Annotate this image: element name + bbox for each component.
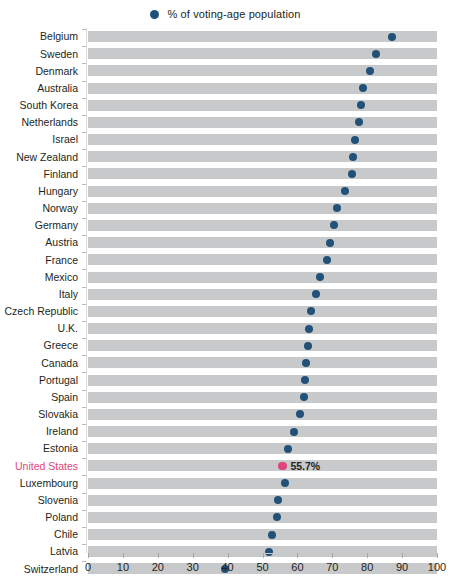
row-tick: [82, 544, 86, 545]
row-band: [88, 323, 437, 334]
table-row: Norway: [0, 200, 450, 217]
row-band: [88, 409, 437, 420]
row-band: [88, 306, 437, 317]
axis-tick: [193, 553, 194, 558]
table-row: Luxembourg: [0, 474, 450, 491]
row-band: [88, 31, 437, 42]
table-row: Canada: [0, 354, 450, 371]
data-point-marker: [366, 67, 374, 75]
row-label-ireland: Ireland: [0, 423, 78, 440]
data-point-marker: [290, 428, 298, 436]
row-band: [88, 272, 437, 283]
row-label-france: France: [0, 251, 78, 268]
table-row: France: [0, 251, 450, 268]
row-band: [88, 168, 437, 179]
axis-tick-label: 90: [396, 561, 408, 573]
row-tick: [82, 46, 86, 47]
row-band: [88, 186, 437, 197]
legend-marker-icon: [150, 10, 159, 19]
row-tick: [82, 218, 86, 219]
data-point-marker: [281, 479, 289, 487]
table-row: New Zealand: [0, 148, 450, 165]
data-point-marker: [351, 136, 359, 144]
row-tick: [82, 166, 86, 167]
table-row: Austria: [0, 234, 450, 251]
row-label-united-states: United States: [0, 457, 78, 474]
row-band: [88, 478, 437, 489]
row-label-estonia: Estonia: [0, 440, 78, 457]
row-tick: [82, 81, 86, 82]
data-point-marker: [323, 256, 331, 264]
data-point-marker: [305, 325, 313, 333]
row-band: [88, 203, 437, 214]
row-band: [88, 220, 437, 231]
axis-tick-label: 0: [85, 561, 91, 573]
row-label-south-korea: South Korea: [0, 97, 78, 114]
row-label-australia: Australia: [0, 80, 78, 97]
table-row: Chile: [0, 526, 450, 543]
row-label-mexico: Mexico: [0, 268, 78, 285]
axis-tick: [123, 553, 124, 558]
row-tick: [82, 510, 86, 511]
row-band: [88, 117, 437, 128]
data-point-marker: [304, 342, 312, 350]
chart-legend: % of voting-age population: [0, 8, 450, 20]
row-label-slovakia: Slovakia: [0, 406, 78, 423]
row-tick: [82, 304, 86, 305]
table-row: Denmark: [0, 62, 450, 79]
row-label-czech-republic: Czech Republic: [0, 303, 78, 320]
row-band: [88, 237, 437, 248]
row-tick: [82, 338, 86, 339]
row-band: [88, 443, 437, 454]
row-band: [88, 340, 437, 351]
row-label-sweden: Sweden: [0, 45, 78, 62]
row-tick: [82, 184, 86, 185]
row-band: [88, 512, 437, 523]
axis-tick-label: 100: [428, 561, 446, 573]
row-tick: [82, 235, 86, 236]
row-label-italy: Italy: [0, 286, 78, 303]
row-label-canada: Canada: [0, 354, 78, 371]
axis-tick-label: 60: [291, 561, 303, 573]
data-point-marker: [278, 462, 287, 471]
row-label-austria: Austria: [0, 234, 78, 251]
table-row: Finland: [0, 165, 450, 182]
row-label-new-zealand: New Zealand: [0, 148, 78, 165]
row-tick: [82, 252, 86, 253]
row-label-hungary: Hungary: [0, 183, 78, 200]
table-row: Greece: [0, 337, 450, 354]
table-row: Netherlands: [0, 114, 450, 131]
row-label-finland: Finland: [0, 165, 78, 182]
row-tick: [82, 321, 86, 322]
voting-age-turnout-chart: % of voting-age population BelgiumSweden…: [0, 0, 450, 585]
row-band: [88, 357, 437, 368]
table-row: Australia: [0, 80, 450, 97]
row-band: [88, 65, 437, 76]
row-band: [88, 460, 437, 471]
table-row: U.K.: [0, 320, 450, 337]
table-row: Estonia: [0, 440, 450, 457]
axis-tick: [297, 553, 298, 558]
row-label-poland: Poland: [0, 509, 78, 526]
data-point-marker: [349, 153, 357, 161]
row-band: [88, 529, 437, 540]
axis-tick-label: 20: [152, 561, 164, 573]
row-tick: [82, 287, 86, 288]
row-tick: [82, 372, 86, 373]
table-row: Spain: [0, 389, 450, 406]
axis-tick-label: 10: [117, 561, 129, 573]
axis-tick: [367, 553, 368, 558]
data-point-marker: [341, 187, 349, 195]
row-tick: [82, 269, 86, 270]
plot-area: BelgiumSwedenDenmarkAustraliaSouth Korea…: [0, 28, 450, 553]
row-tick: [82, 29, 86, 30]
chart-rows: BelgiumSwedenDenmarkAustraliaSouth Korea…: [0, 28, 450, 578]
table-row: Italy: [0, 286, 450, 303]
table-row: Hungary: [0, 183, 450, 200]
row-band: [88, 289, 437, 300]
row-label-belgium: Belgium: [0, 28, 78, 45]
data-point-label: 55.7%: [290, 459, 320, 472]
table-row: Belgium: [0, 28, 450, 45]
row-tick: [82, 132, 86, 133]
table-row: Ireland: [0, 423, 450, 440]
